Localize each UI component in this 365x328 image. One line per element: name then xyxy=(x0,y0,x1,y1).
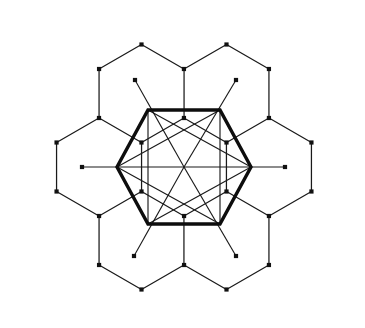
tiling-vertex-dot xyxy=(139,140,143,144)
tiling-vertex-dot xyxy=(139,42,143,46)
tiling-vertex-dot xyxy=(224,287,228,291)
spoke-endpoint-dot xyxy=(283,165,287,169)
tiling-edge xyxy=(227,45,269,70)
tiling-vertex-dot xyxy=(224,42,228,46)
spoke-endpoint-dot xyxy=(133,78,137,82)
tiling-vertex-dot xyxy=(182,214,186,218)
tiling-edge xyxy=(57,192,99,217)
tiling-vertex-dot xyxy=(54,140,58,144)
tiling-vertex-dot xyxy=(224,189,228,193)
tiling-vertex-dot xyxy=(139,189,143,193)
tiling-vertex-dot xyxy=(224,140,228,144)
tiling-edge xyxy=(57,118,99,143)
hexagonal-tiling-figure xyxy=(0,0,365,328)
tiling-vertex-dot xyxy=(267,116,271,120)
tiling-vertex-dot xyxy=(267,263,271,267)
spoke-endpoint-dot xyxy=(80,165,84,169)
tiling-edge xyxy=(142,265,184,290)
tiling-edge xyxy=(184,45,226,70)
tiling-edge xyxy=(142,45,184,70)
tiling-edge xyxy=(269,118,311,143)
tiling-vertex-dot xyxy=(267,214,271,218)
tiling-edge xyxy=(269,192,311,217)
tiling-vertex-dot xyxy=(182,263,186,267)
tiling-vertex-dot xyxy=(267,67,271,71)
tiling-edge xyxy=(227,265,269,290)
tiling-vertex-dot xyxy=(97,263,101,267)
spoke-endpoint-dot xyxy=(234,254,238,258)
tiling-vertex-dot xyxy=(309,140,313,144)
tiling-edge xyxy=(99,265,141,290)
spoke-endpoint-dot xyxy=(234,78,238,82)
tiling-vertex-dot xyxy=(97,67,101,71)
spoke-endpoint-dot xyxy=(132,254,136,258)
tiling-vertex-dot xyxy=(97,214,101,218)
tiling-vertex-dot xyxy=(97,116,101,120)
tiling-vertex-dot xyxy=(139,287,143,291)
tiling-edge xyxy=(184,265,226,290)
tiling-vertex-dot xyxy=(54,189,58,193)
tiling-vertex-dot xyxy=(182,116,186,120)
tiling-vertex-dot xyxy=(182,67,186,71)
tiling-edge xyxy=(99,45,141,70)
diagram-canvas xyxy=(0,0,365,328)
tiling-vertex-dot xyxy=(309,189,313,193)
